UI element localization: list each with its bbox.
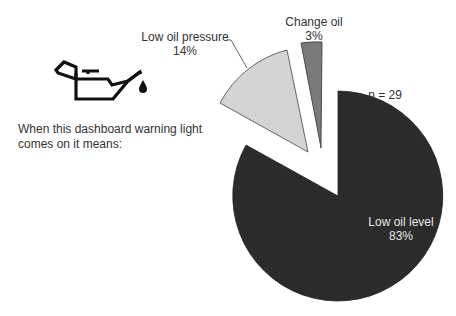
label-low-oil-level: Low oil level 83% [356,215,446,243]
label-name: Low oil level [356,215,446,229]
oil-drop-icon [139,80,147,93]
sample-size: n = 29 [355,88,415,102]
label-pct: 3% [274,29,354,43]
chart-caption: When this dashboard warning light comes … [18,122,248,152]
label-pct: 83% [356,229,446,243]
label-name: Low oil pressure [140,30,230,44]
oil-can-icon [56,62,141,99]
caption-line-1: When this dashboard warning light [18,122,248,137]
caption-line-2: comes on it means: [18,137,248,152]
leader-line [227,40,247,68]
label-pct: 14% [140,44,230,58]
label-change-oil: Change oil 3% [274,15,354,43]
label-name: Change oil [274,15,354,29]
label-low-oil-pressure: Low oil pressure 14% [140,30,230,58]
